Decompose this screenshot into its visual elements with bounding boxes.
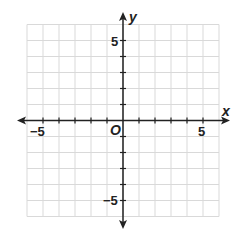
x-tick-label-5: 5 [198, 124, 205, 139]
axes [17, 12, 230, 229]
coordinate-plane: x y O −5 5 5 −5 [0, 0, 242, 232]
x-axis-label: x [221, 103, 231, 119]
y-tick-label-5: 5 [111, 34, 118, 49]
y-tick-label-neg5: −5 [103, 193, 118, 208]
y-axis-label: y [128, 9, 138, 25]
origin-label: O [110, 122, 121, 138]
x-tick-label-neg5: −5 [30, 124, 45, 139]
